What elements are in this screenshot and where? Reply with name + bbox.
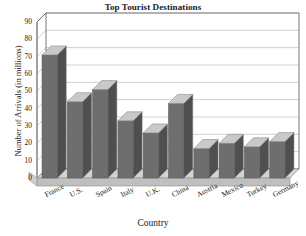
bar-turkey <box>244 138 268 178</box>
bar-mexico <box>219 134 243 178</box>
bar-austria <box>194 140 218 178</box>
y-tick-label: 70 <box>16 52 32 61</box>
bar-italy <box>118 112 142 178</box>
bar-spain <box>93 81 117 178</box>
y-tick-label: 40 <box>16 104 32 113</box>
y-tick-label: 50 <box>16 86 32 95</box>
bar-uk <box>143 124 167 178</box>
bar-us <box>67 93 91 178</box>
y-tick-label: 20 <box>16 138 32 147</box>
y-tick-label: 10 <box>16 156 32 165</box>
bar-france <box>42 46 66 178</box>
plot-area <box>0 0 306 236</box>
bar-chart: Top Tourist Destinations Number of Arriv… <box>0 0 306 236</box>
y-tick-label: 0 <box>16 173 32 182</box>
y-tick-label: 60 <box>16 69 32 78</box>
bar-germany <box>270 133 294 178</box>
y-tick-label: 90 <box>16 17 32 26</box>
y-tick-label: 80 <box>16 34 32 43</box>
bar-china <box>169 94 193 178</box>
y-tick-label: 30 <box>16 121 32 130</box>
